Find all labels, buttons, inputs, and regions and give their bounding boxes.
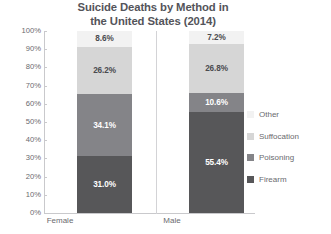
bar-segment-male-firearm[interactable]: 55.4%	[189, 112, 244, 213]
panel-divider	[156, 31, 157, 214]
bar-segment-male-other[interactable]: 7.2%	[189, 31, 244, 44]
y-tick-label-10: 10%	[3, 191, 41, 199]
bar-segment-female-other[interactable]: 8.6%	[77, 31, 132, 47]
bar-segment-female-suffocation[interactable]: 26.2%	[77, 47, 132, 95]
legend-item-suffocation[interactable]: Suffocation	[247, 126, 329, 148]
bar-label-male-other: 7.2%	[207, 33, 225, 42]
legend-swatch-other-icon	[247, 111, 254, 118]
bar-segment-female-poisoning[interactable]: 34.1%	[77, 94, 132, 156]
bar-label-female-poisoning: 34.1%	[93, 121, 116, 130]
bar-segment-male-suffocation[interactable]: 26.8%	[189, 44, 244, 93]
legend-label-other: Other	[259, 110, 279, 119]
bar-label-female-firearm: 31.0%	[93, 180, 116, 189]
bar-segment-male-poisoning[interactable]: 10.6%	[189, 93, 244, 112]
x-category-label-male: Male	[117, 216, 227, 226]
bar-stack-male[interactable]: 7.2% 26.8% 10.6% 55.4%	[189, 31, 244, 213]
plot-area: 8.6% 26.2% 34.1% 31.0% 7.2% 26.8% 10.6%	[44, 31, 254, 213]
y-tick-label-20: 20%	[3, 173, 41, 181]
bar-label-female-suffocation: 26.2%	[93, 66, 116, 75]
y-tick-label-100: 100%	[3, 27, 41, 35]
y-tick-label-60: 60%	[3, 100, 41, 108]
bar-label-male-firearm: 55.4%	[205, 158, 228, 167]
legend-label-firearm: Firearm	[259, 175, 287, 184]
chart-title-line-1: Suicide Deaths by Method in	[38, 1, 268, 15]
bar-segment-female-firearm[interactable]: 31.0%	[77, 156, 132, 212]
x-category-label-female: Female	[5, 216, 115, 226]
y-axis-labels: 100% 90% 80% 70% 60% 50% 40% 30% 20% 10%…	[0, 31, 41, 214]
y-tick-label-70: 70%	[3, 82, 41, 90]
bar-label-male-poisoning: 10.6%	[205, 98, 228, 107]
chart-title-line-2: the United States (2014)	[38, 15, 268, 29]
legend-item-firearm[interactable]: Firearm	[247, 169, 329, 191]
x-axis-line	[44, 213, 255, 214]
bar-label-male-suffocation: 26.8%	[205, 64, 228, 73]
legend-label-poisoning: Poisoning	[259, 153, 294, 162]
y-tick-label-40: 40%	[3, 136, 41, 144]
y-tick-label-50: 50%	[3, 118, 41, 126]
bar-stack-female[interactable]: 8.6% 26.2% 34.1% 31.0%	[77, 31, 132, 213]
legend-item-poisoning[interactable]: Poisoning	[247, 147, 329, 169]
legend-swatch-firearm-icon	[247, 176, 254, 183]
legend-label-suffocation: Suffocation	[259, 132, 299, 141]
bar-label-female-other: 8.6%	[95, 34, 113, 43]
y-tick-label-30: 30%	[3, 154, 41, 162]
stacked-bar-chart: Suicide Deaths by Method in the United S…	[0, 0, 331, 234]
chart-legend: Other Suffocation Poisoning Firearm	[247, 104, 329, 190]
chart-title: Suicide Deaths by Method in the United S…	[38, 1, 268, 28]
legend-swatch-poisoning-icon	[247, 154, 254, 161]
legend-item-other[interactable]: Other	[247, 104, 329, 126]
legend-swatch-suffocation-icon	[247, 133, 254, 140]
y-tick-label-90: 90%	[3, 45, 41, 53]
y-tick-label-80: 80%	[3, 63, 41, 71]
